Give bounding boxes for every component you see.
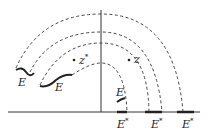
e-star-label-3: E*: [182, 118, 194, 130]
z-star-point: [73, 59, 76, 62]
z-label: z: [134, 54, 140, 65]
e-label-left: E: [18, 77, 26, 88]
z-point: [128, 59, 131, 62]
dashed-arc-3: [40, 43, 149, 112]
diagram-canvas: E E E z* z E* E* E*: [0, 0, 208, 133]
e-star-label-2: E*: [151, 118, 163, 130]
z-star-label: z*: [79, 54, 88, 66]
e-star-label-1: E*: [117, 118, 129, 130]
e-label-middle: E: [55, 82, 63, 93]
diagram-svg: [0, 0, 208, 133]
e-label-small: E: [116, 87, 124, 98]
